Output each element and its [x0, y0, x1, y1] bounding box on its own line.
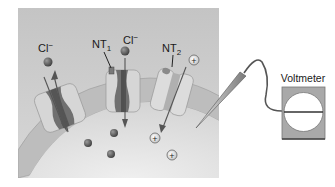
voltmeter-label: Voltmeter	[281, 72, 326, 84]
nt1-receptor-channel	[106, 67, 140, 112]
chloride-ion	[110, 129, 118, 137]
svg-text:+: +	[152, 134, 157, 144]
chloride-ion	[44, 58, 53, 67]
cation-ion: +	[167, 150, 177, 161]
chloride-ion	[121, 47, 130, 56]
svg-text:+: +	[191, 56, 196, 66]
cation-ion: +	[189, 55, 199, 66]
diagram-canvas: Cl− NT1 Cl− NT2 + + + Voltmeter	[0, 0, 335, 187]
voltmeter	[282, 87, 325, 139]
chloride-ion	[107, 150, 115, 158]
electrode-wire	[244, 60, 282, 111]
chloride-ion	[84, 139, 92, 147]
nt1-binding-site	[109, 67, 114, 74]
svg-text:+: +	[169, 151, 174, 161]
cation-ion: +	[150, 133, 160, 144]
